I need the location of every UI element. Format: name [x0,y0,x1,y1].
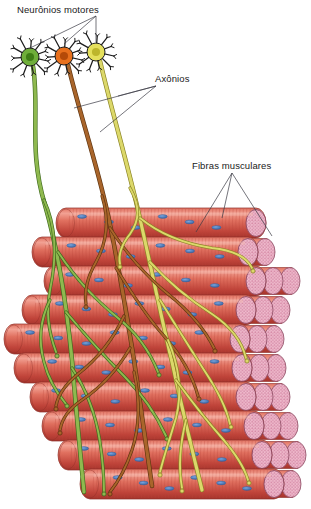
dendrite-fork [45,49,48,53]
muscle-fiber-row [30,382,290,412]
dendrite-fork [110,67,113,70]
dendrite-fork [114,55,117,59]
muscle-nucleus [156,244,165,248]
dendrite-fork [77,51,80,55]
dendrite-fork [79,48,82,52]
muscle-nucleus [111,400,120,404]
muscle-nucleus [54,336,63,340]
muscle-nucleus [242,487,251,491]
dendrite-fork [107,34,110,37]
muscle-nucleus [139,481,148,485]
dendrite-fork [78,71,81,74]
soma-nucleus [26,53,34,61]
motor-end-plate [245,359,249,363]
dendrite-fork [45,55,48,59]
motor-end-plate [58,431,62,435]
motor-end-plate [55,354,59,358]
dendrite-fork [83,31,87,34]
motor-end-plate [108,492,112,496]
dendrite-fork [63,37,67,40]
muscle-nucleus [94,278,103,282]
leader-line [64,16,96,44]
label-fibras-musculares: Fibras musculares [192,160,271,171]
muscle-nucleus [82,342,91,346]
motor-unit-diagram: Neurônios motoresAxôniosFibras musculare… [0,0,311,509]
label-axonios: Axônios [155,73,190,84]
muscle-nucleus [221,429,230,433]
leader-line [30,16,96,48]
muscle-nucleus [216,481,225,485]
dendrite-fork [44,72,47,75]
motor-end-plate [197,397,201,401]
muscle-nucleus [158,215,167,219]
motor-end-plate [157,373,161,377]
dendrite-fork [29,38,33,41]
muscle-fiber-row [80,469,301,499]
muscle-nucleus [163,418,172,422]
muscle-nucleus [192,423,201,427]
muscle-nucleus [217,458,226,462]
muscle-nucleus [165,487,174,491]
dendrite-fork [76,64,79,67]
motor-end-plate [251,269,255,273]
dendrite-fork [11,45,14,49]
muscle-nucleus [135,458,144,462]
dendrite-fork [45,44,48,48]
motor-end-plate [102,492,106,496]
neuron-orange [44,35,84,76]
motor-end-plate [54,407,58,411]
dendrite-fork [87,69,91,72]
dendrite-fork [44,68,47,71]
muscle-nucleus [185,249,194,253]
dendrite-fork [111,44,114,48]
motor-end-plate [65,404,69,408]
motor-end-plate [84,305,88,309]
dendrite-fork [55,73,59,76]
muscle-nucleus [212,226,221,230]
muscle-nucleus [77,215,86,219]
muscle-nucleus [25,331,34,335]
muscle-nucleus [181,278,190,282]
muscle-nucleus [210,284,219,288]
muscle-fiber-row [44,266,300,296]
dendrite-fork [75,38,78,41]
dendrite-fork [10,69,13,72]
motor-end-plate [229,425,233,429]
motor-end-plate [118,265,122,269]
motor-end-plate [213,349,217,353]
muscle-nucleus [214,302,223,306]
label-neuronios-motores: Neurônios motores [17,4,99,15]
soma-nucleus [60,52,68,60]
muscle-nucleus [67,244,76,248]
muscle-nucleus [215,255,224,259]
dendrite-fork [11,56,14,60]
muscle-nucleus [140,389,149,393]
soma-nucleus [92,48,100,56]
dendrite-fork [17,36,21,39]
muscle-nucleus [185,220,194,224]
muscle-nucleus [48,360,57,364]
muscle-nucleus [105,423,114,427]
muscle-fiber-stack [4,208,306,499]
neuron-green [10,36,50,77]
muscle-fiber-row [32,237,275,267]
dendrite-fork [21,74,25,77]
motor-end-plate [180,489,184,493]
dendrite-fork [48,60,51,64]
motor-end-plate [158,473,162,477]
motor-end-plate [247,481,251,485]
muscle-nucleus [107,452,116,456]
muscle-nucleus [210,360,219,364]
